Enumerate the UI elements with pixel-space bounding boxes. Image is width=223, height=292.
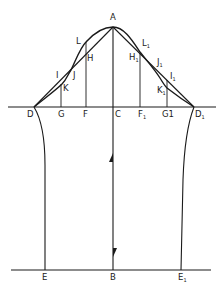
label-i1: I1 xyxy=(170,71,176,82)
label-g: G xyxy=(58,109,65,119)
label-f1: F1 xyxy=(138,109,146,120)
diagonal-a-d1 xyxy=(113,27,194,107)
side-seam-d-e xyxy=(34,107,45,270)
grainline-arrow-down-icon xyxy=(113,248,117,257)
label-f: F xyxy=(83,109,88,119)
side-seam-d1-e1 xyxy=(181,107,194,270)
diagonal-d-a xyxy=(34,27,113,107)
label-i: I xyxy=(56,70,59,80)
label-j1: J1 xyxy=(156,57,163,68)
label-j: J xyxy=(72,70,76,80)
label-e: E xyxy=(42,272,47,282)
label-k: K xyxy=(63,83,69,93)
sleeve-draft-diagram: A L H I J K L1 H1 J1 I1 K1 D G F C F1 G1… xyxy=(0,0,223,292)
label-k1: K1 xyxy=(157,85,166,96)
label-d1: D1 xyxy=(195,109,205,120)
grainline-arrow-up-icon xyxy=(109,153,113,162)
label-h1: H1 xyxy=(129,52,139,63)
label-e1: E1 xyxy=(178,272,187,283)
label-l: L xyxy=(76,36,81,46)
label-b: B xyxy=(110,272,116,282)
label-g1: G1 xyxy=(162,109,174,119)
label-a: A xyxy=(110,12,116,22)
label-l1: L1 xyxy=(142,38,150,49)
label-d: D xyxy=(27,109,34,119)
label-c: C xyxy=(115,109,121,119)
sleeve-crown-curve xyxy=(34,27,194,107)
label-h: H xyxy=(87,53,93,63)
